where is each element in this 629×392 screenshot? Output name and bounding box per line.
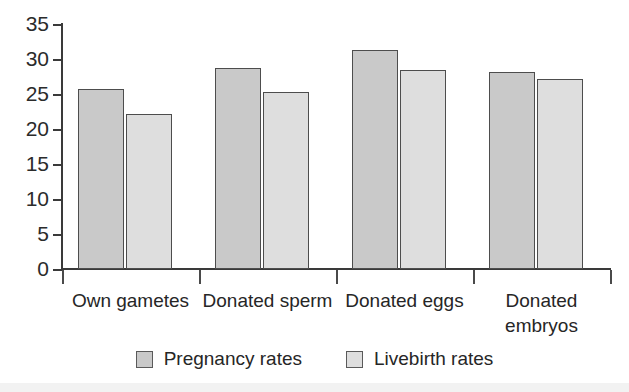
y-tick-mark — [53, 269, 62, 271]
y-tick-label: 25 — [26, 82, 49, 106]
y-tick-label: 30 — [26, 47, 49, 71]
y-tick-label: 10 — [26, 187, 49, 211]
x-axis-separator — [473, 270, 475, 284]
y-tick-mark — [53, 24, 62, 26]
y-tick-label: 15 — [26, 152, 49, 176]
bar-group — [473, 24, 610, 269]
bar-pregnancy — [215, 68, 261, 269]
x-category-label: Donated eggs — [336, 288, 473, 313]
legend-item: Pregnancy rates — [136, 348, 302, 370]
y-tick-mark — [53, 199, 62, 201]
x-axis-separator — [62, 270, 64, 284]
y-tick-mark — [53, 129, 62, 131]
y-tick-label: 35 — [26, 12, 49, 36]
bar-livebirth — [400, 70, 446, 269]
plot-area: 05101520253035 — [62, 24, 610, 269]
legend-item: Livebirth rates — [346, 348, 493, 370]
legend-label: Livebirth rates — [374, 348, 493, 370]
chart-legend: Pregnancy ratesLivebirth rates — [0, 348, 629, 370]
bar-group — [199, 24, 336, 269]
bar-livebirth — [263, 92, 309, 269]
x-category-label: Own gametes — [62, 288, 199, 313]
bar-pregnancy — [78, 89, 124, 269]
bar-pregnancy — [352, 50, 398, 269]
y-tick-mark — [53, 164, 62, 166]
x-category-label: Donated sperm — [199, 288, 336, 313]
legend-label: Pregnancy rates — [164, 348, 302, 370]
y-tick-label: 5 — [37, 222, 49, 246]
bar-chart-figure: 05101520253035 Own gametesDonated spermD… — [0, 0, 629, 392]
bottom-band — [0, 383, 629, 392]
legend-swatch-icon — [346, 351, 363, 368]
y-tick-mark — [53, 94, 62, 96]
y-tick-label: 20 — [26, 117, 49, 141]
y-tick-mark — [53, 234, 62, 236]
bar-pregnancy — [489, 72, 535, 269]
x-category-label: Donated embryos — [473, 288, 610, 338]
x-axis-separator — [336, 270, 338, 284]
y-tick-mark — [53, 59, 62, 61]
bar-livebirth — [537, 79, 583, 269]
y-tick-label: 0 — [37, 257, 49, 281]
bar-group — [62, 24, 199, 269]
x-axis-separator — [610, 270, 612, 284]
x-axis-separator — [199, 270, 201, 284]
legend-swatch-icon — [136, 351, 153, 368]
bar-group — [336, 24, 473, 269]
bar-livebirth — [126, 114, 172, 269]
